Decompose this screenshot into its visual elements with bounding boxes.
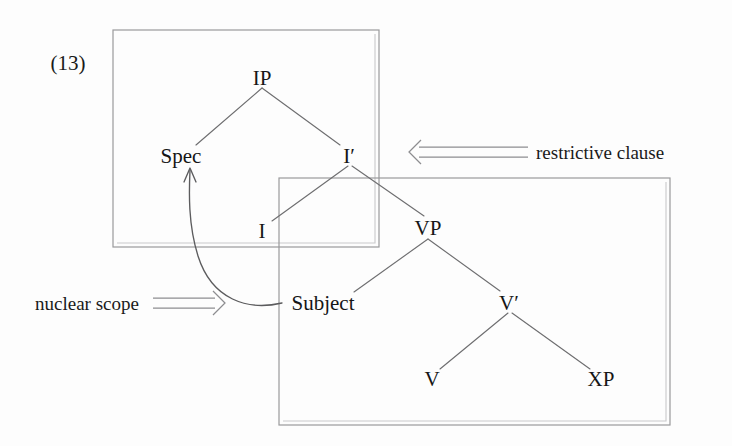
node-ip: IP: [253, 66, 272, 90]
branch-vp-vbar: [428, 239, 500, 291]
branch-ibar-vp: [352, 166, 424, 216]
right-double-arrow-icon: [153, 291, 225, 315]
node-subject: Subject: [292, 291, 355, 315]
node-vp: VP: [415, 216, 442, 240]
restrictive-clause-annotation: restrictive clause: [409, 140, 664, 164]
subject-to-spec-movement-arrow: [184, 168, 282, 305]
movement-arrow-curve: [189, 170, 282, 305]
ip-tree-labels: IP Spec I′ I: [161, 66, 355, 243]
branch-ip-ibar: [262, 88, 340, 145]
restrictive-clause-label: restrictive clause: [536, 142, 664, 163]
branch-vbar-v: [440, 313, 508, 369]
node-v-bar: V′: [499, 291, 519, 315]
nuclear-scope-label: nuclear scope: [35, 293, 139, 314]
branch-vbar-xp: [512, 313, 590, 369]
vp-tree-branches: [354, 239, 590, 369]
syntax-tree-figure: restrictive clause nuclear scope (13) IP…: [0, 0, 732, 446]
node-spec: Spec: [161, 144, 202, 168]
branch-ip-spec: [196, 88, 262, 145]
node-xp: XP: [588, 367, 615, 391]
example-number: (13): [51, 51, 86, 75]
node-i: I: [259, 219, 266, 243]
branch-ibar-i: [272, 166, 348, 221]
left-double-arrow-icon: [409, 140, 528, 164]
restrictive-clause-box: [113, 30, 379, 247]
ip-tree-branches: [196, 88, 424, 221]
nuclear-scope-annotation: nuclear scope: [35, 291, 225, 315]
node-v: V: [424, 367, 439, 391]
figure-canvas: restrictive clause nuclear scope (13) IP…: [0, 0, 732, 446]
restrictive-clause-box-inner-edge: [117, 34, 375, 243]
vp-tree-labels: VP Subject V′ V XP: [292, 216, 615, 391]
node-i-bar: I′: [343, 144, 355, 168]
